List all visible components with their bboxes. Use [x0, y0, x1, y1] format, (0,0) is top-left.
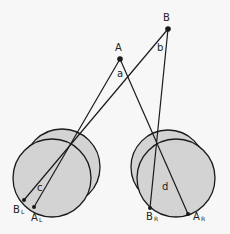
binocular-disparity-diagram: A B a b c d B L A L B R A R: [0, 0, 230, 234]
label-br: B: [146, 211, 153, 222]
diagram-canvas: A B a b c d B L A L B R A R: [0, 0, 230, 234]
point-ar: [186, 212, 190, 216]
point-a: [117, 56, 123, 62]
right-eye-globe: [137, 139, 215, 217]
label-ar-sub: R: [201, 215, 205, 222]
label-br-sub: R: [154, 215, 158, 222]
label-bl: B: [13, 204, 20, 215]
left-eye-globe: [13, 139, 91, 217]
angle-label-b: b: [157, 42, 163, 53]
point-bl: [22, 198, 26, 202]
label-a: A: [115, 42, 122, 53]
point-b: [165, 26, 171, 32]
point-br: [148, 206, 152, 210]
label-b: B: [163, 12, 170, 23]
right-eye: [131, 130, 215, 217]
label-bl-sub: L: [21, 208, 25, 215]
left-eye: [13, 129, 100, 217]
angle-label-d: d: [162, 181, 168, 192]
point-al: [32, 205, 36, 209]
label-al-sub: L: [39, 216, 43, 223]
label-ar: A: [193, 211, 200, 222]
label-al: A: [31, 212, 38, 223]
angle-label-c: c: [37, 182, 43, 193]
angle-label-a: a: [117, 68, 123, 79]
